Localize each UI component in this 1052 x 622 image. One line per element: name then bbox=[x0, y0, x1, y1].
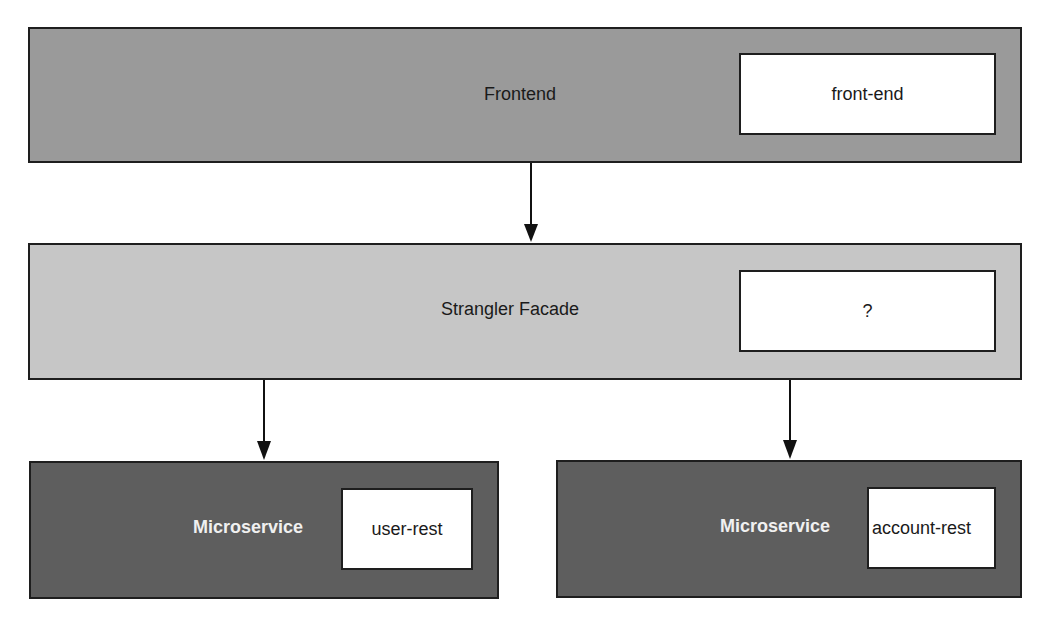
arrow-facade-to-account-rest bbox=[783, 380, 797, 459]
connector-arrows bbox=[0, 0, 1052, 622]
arrow-facade-to-user-rest bbox=[257, 380, 271, 460]
arrow-frontend-to-facade bbox=[524, 163, 538, 242]
